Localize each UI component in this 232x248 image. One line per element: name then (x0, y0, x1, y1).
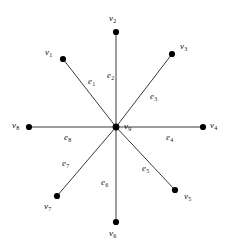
vertex-label-v4: v4 (210, 121, 217, 130)
vertex-label-v3: v3 (180, 42, 187, 51)
edge-label-e6: e6 (101, 178, 108, 187)
vertex-label-v3-subscript: 3 (184, 46, 187, 52)
vertex-label-v9-subscript: 9 (128, 126, 131, 132)
edge-label-e5: e5 (142, 164, 149, 173)
vertex-label-v6: v6 (109, 229, 116, 238)
vertex-dot-v2 (113, 29, 119, 35)
vertex-label-v6-subscript: 6 (113, 233, 116, 239)
edge-label-e5-subscript: 5 (146, 168, 149, 174)
vertex-dot-v4 (200, 124, 206, 130)
vertex-label-v1-subscript: 1 (49, 52, 52, 58)
vertex-label-v5-subscript: 5 (188, 196, 191, 202)
edge-label-e7: e7 (62, 159, 69, 168)
vertex-dot-v7 (54, 193, 60, 199)
edge-label-e8-subscript: 8 (68, 137, 71, 143)
edge-label-e6-subscript: 6 (105, 182, 108, 188)
graph-canvas (0, 0, 232, 248)
vertex-dot-v1 (60, 56, 66, 62)
vertex-label-v8-subscript: 8 (16, 125, 19, 131)
vertex-label-v8: v8 (12, 121, 19, 130)
edge-label-e3: e3 (150, 92, 157, 101)
vertex-label-v9: v9 (124, 122, 131, 131)
vertex-label-v2: v2 (109, 14, 116, 23)
vertex-dot-v6 (113, 219, 119, 225)
vertex-dot-v3 (169, 51, 175, 57)
edge-label-e4-subscript: 4 (170, 137, 173, 143)
star-graph-figure: v1v2v3v4v5v6v7v8v9e1e2e3e4e5e6e7e8 (0, 0, 232, 248)
vertex-label-v7-subscript: 7 (48, 206, 51, 212)
edge-label-e7-subscript: 7 (66, 163, 69, 169)
vertex-label-v5: v5 (184, 192, 191, 201)
vertex-dot-v5 (172, 187, 178, 193)
edge-label-e1: e1 (88, 77, 95, 86)
edge-label-e4: e4 (166, 133, 173, 142)
edge-e3 (116, 54, 172, 127)
vertex-dot-v9 (113, 124, 120, 131)
edge-label-e2: e2 (107, 71, 114, 80)
edge-label-e8: e8 (64, 133, 71, 142)
vertex-label-v4-subscript: 4 (214, 125, 217, 131)
vertex-label-v2-subscript: 2 (113, 18, 116, 24)
edge-label-e3-subscript: 3 (154, 96, 157, 102)
edge-label-e2-subscript: 2 (111, 75, 114, 81)
vertex-label-v1: v1 (45, 48, 52, 57)
vertex-dot-v8 (26, 124, 32, 130)
edge-label-e1-subscript: 1 (92, 81, 95, 87)
vertex-label-v7: v7 (44, 202, 51, 211)
